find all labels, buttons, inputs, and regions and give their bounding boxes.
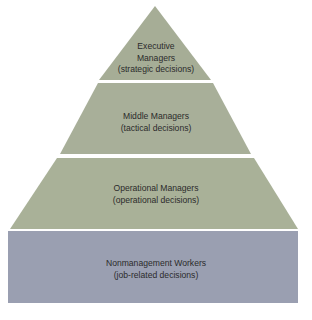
tier-nonmanagement-subtitle: (job-related decisions): [0, 270, 312, 282]
tier-operational-title: Operational Managers: [0, 183, 312, 195]
tier-middle-subtitle: (tactical decisions): [0, 123, 312, 135]
tier-operational-subtitle: (operational decisions): [0, 195, 312, 207]
tier-executive-label: Executive Managers (strategic decisions): [0, 41, 312, 76]
tier-executive-subtitle: (strategic decisions): [0, 64, 312, 76]
tier-nonmanagement-title: Nonmanagement Workers: [0, 258, 312, 270]
tier-executive-title-line2: Managers: [0, 53, 312, 65]
tier-middle-label: Middle Managers (tactical decisions): [0, 111, 312, 134]
tier-operational-label: Operational Managers (operational decisi…: [0, 183, 312, 206]
tier-executive-title: Executive: [0, 41, 312, 53]
tier-nonmanagement-label: Nonmanagement Workers (job-related decis…: [0, 258, 312, 281]
tier-middle-title: Middle Managers: [0, 111, 312, 123]
